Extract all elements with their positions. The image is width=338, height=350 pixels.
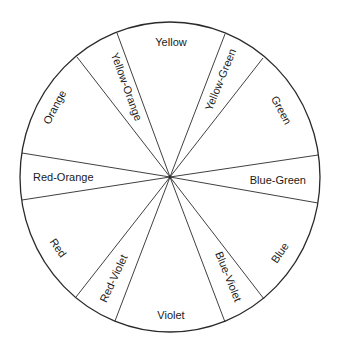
label-blue-green: Blue-Green	[250, 174, 306, 186]
label-violet: Violet	[157, 309, 184, 321]
label-yellow: Yellow	[155, 36, 186, 48]
label-red-orange: Red-Orange	[33, 171, 94, 183]
color-wheel-diagram: Yellow Yellow-Green Green Blue-Green Blu…	[0, 0, 338, 350]
center-point	[169, 176, 172, 179]
